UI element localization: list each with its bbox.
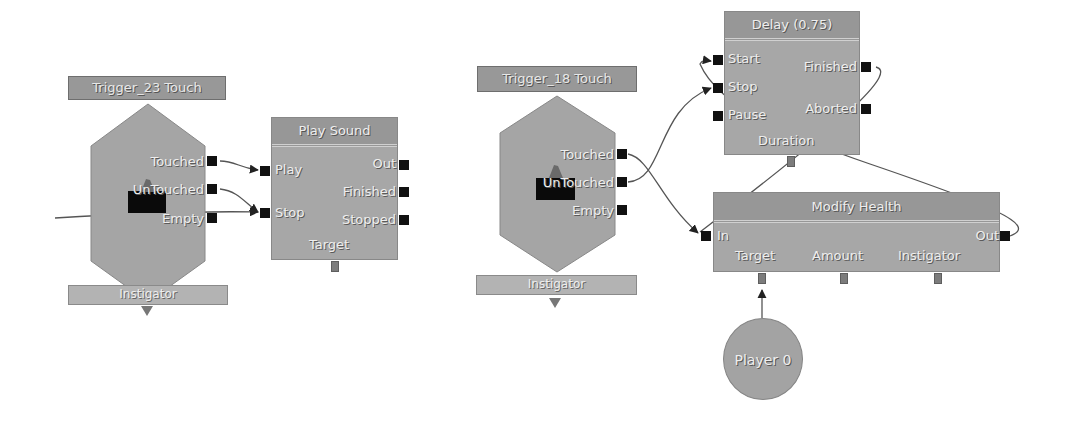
trigger-23-output-untouched-label: UnTouched bbox=[133, 182, 204, 197]
trigger-18-untouched-port[interactable] bbox=[617, 177, 627, 187]
play-sound-input-stop-label: Stop bbox=[275, 205, 305, 220]
trigger-18-output-empty-label: Empty bbox=[572, 203, 614, 218]
play-sound-input-play-label: Play bbox=[275, 162, 302, 177]
modify-health-target-var-port[interactable] bbox=[758, 273, 766, 284]
play-sound-output-finished-label: Finished bbox=[343, 184, 396, 199]
trigger-18-empty-port[interactable] bbox=[617, 205, 627, 215]
trigger-23-touched-port[interactable] bbox=[207, 156, 217, 166]
delay-title: Delay (0.75) bbox=[725, 12, 859, 41]
trigger-23-untouched-port[interactable] bbox=[207, 184, 217, 194]
play-sound-out-port[interactable] bbox=[399, 160, 409, 170]
delay-var-duration-label: Duration bbox=[758, 133, 814, 148]
delay-aborted-port[interactable] bbox=[861, 104, 871, 114]
modify-health-output-out-label: Out bbox=[975, 228, 999, 243]
modify-health-in-port[interactable] bbox=[701, 231, 711, 241]
modify-health-var-target-label: Target bbox=[735, 248, 775, 263]
modify-health-out-port[interactable] bbox=[1000, 231, 1010, 241]
play-sound-stopped-port[interactable] bbox=[399, 215, 409, 225]
delay-finished-port[interactable] bbox=[861, 62, 871, 72]
player-0-variable[interactable]: Player 0 bbox=[723, 318, 803, 400]
delay-start-port[interactable] bbox=[713, 55, 723, 65]
modify-health-title: Modify Health bbox=[714, 193, 999, 223]
delay-input-stop-label: Stop bbox=[728, 79, 758, 94]
play-sound-target-var-port[interactable] bbox=[331, 261, 339, 272]
delay-pause-port[interactable] bbox=[713, 111, 723, 121]
trigger-18-output-touched-label: Touched bbox=[560, 147, 614, 162]
trigger-18-instigator-bar[interactable]: Instigator bbox=[476, 275, 637, 295]
play-sound-title: Play Sound bbox=[272, 118, 397, 147]
trigger-23-output-empty-label: Empty bbox=[162, 211, 204, 226]
play-sound-stop-port[interactable] bbox=[260, 208, 270, 218]
play-sound-output-out-label: Out bbox=[372, 156, 396, 171]
delay-input-start-label: Start bbox=[728, 51, 760, 66]
modify-health-instigator-var-port[interactable] bbox=[934, 273, 942, 284]
play-sound-var-target-label: Target bbox=[309, 237, 349, 252]
play-sound-output-stopped-label: Stopped bbox=[342, 212, 396, 227]
modify-health-input-in-label: In bbox=[717, 228, 729, 243]
trigger-23-output-touched-label: Touched bbox=[150, 154, 204, 169]
trigger-18-instigator-arrow-icon[interactable] bbox=[549, 298, 561, 308]
modify-health-var-instigator-label: Instigator bbox=[898, 248, 960, 263]
delay-output-aborted-label: Aborted bbox=[805, 101, 857, 116]
play-sound-play-port[interactable] bbox=[260, 166, 270, 176]
trigger-18-output-untouched-label: UnTouched bbox=[543, 175, 614, 190]
delay-stop-port[interactable] bbox=[713, 83, 723, 93]
trigger-23-empty-port[interactable] bbox=[207, 213, 217, 223]
trigger-23-instigator-bar[interactable]: Instigator bbox=[68, 285, 228, 305]
trigger-18-touched-port[interactable] bbox=[617, 149, 627, 159]
kismet-canvas[interactable]: Trigger_23 Touch Touched UnTouched Empty… bbox=[0, 0, 1076, 422]
delay-output-finished-label: Finished bbox=[804, 59, 857, 74]
trigger-23-instigator-arrow-icon[interactable] bbox=[141, 306, 153, 316]
delay-input-pause-label: Pause bbox=[728, 107, 766, 122]
trigger-23-title[interactable]: Trigger_23 Touch bbox=[68, 76, 226, 100]
modify-health-var-amount-label: Amount bbox=[812, 248, 863, 263]
trigger-18-title[interactable]: Trigger_18 Touch bbox=[477, 66, 637, 92]
play-sound-finished-port[interactable] bbox=[399, 187, 409, 197]
modify-health-amount-var-port[interactable] bbox=[840, 273, 848, 284]
delay-duration-var-port[interactable] bbox=[787, 156, 795, 167]
